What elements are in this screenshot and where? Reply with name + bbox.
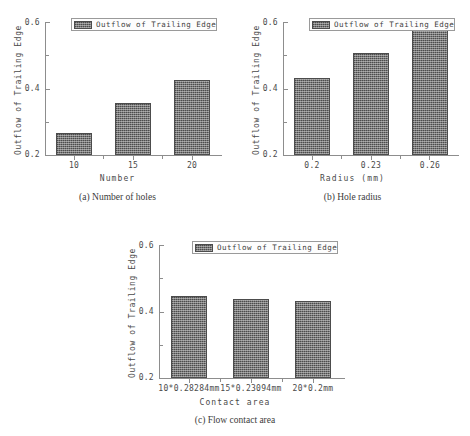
x-axis-title-c: Contact area xyxy=(110,398,360,407)
y-tick-label-a-2: 0.6 xyxy=(20,18,40,27)
legend-b: Outflow of Trailing Edge xyxy=(309,18,455,31)
bar-c-0 xyxy=(171,296,207,378)
y-tick-label-b-0: 0.2 xyxy=(258,150,278,159)
y-tick-c-minor-0 xyxy=(160,345,163,346)
x-tick-c-minor-1 xyxy=(282,379,283,382)
legend-swatch-icon-c xyxy=(195,244,213,252)
bar-b-2 xyxy=(412,28,448,155)
y-tick-a-minor-1 xyxy=(46,55,49,56)
y-tick-b-minor-0 xyxy=(284,122,287,123)
x-tick-label-b-1: 0.23 xyxy=(351,161,391,170)
x-tick-c-minor-0 xyxy=(220,379,221,382)
x-tick-label-c-2: 20*0.2mm xyxy=(278,384,348,393)
bar-c-2 xyxy=(295,301,331,378)
bar-a-2 xyxy=(174,80,210,155)
y-tick-label-c-1: 0.4 xyxy=(134,307,154,316)
x-tick-b-2 xyxy=(429,156,430,160)
chart-panel-a: Outflow of Trailing Edge 0.2 0.4 0.6 10 … xyxy=(0,0,235,210)
x-tick-a-minor-0 xyxy=(103,156,104,159)
x-tick-a-minor-1 xyxy=(162,156,163,159)
y-tick-label-b-2: 0.6 xyxy=(258,18,278,27)
y-tick-a-major-0 xyxy=(46,155,50,156)
y-tick-c-major-1 xyxy=(160,312,164,313)
y-tick-label-a-1: 0.4 xyxy=(20,84,40,93)
y-tick-b-major-2 xyxy=(284,22,288,23)
x-tick-c-2 xyxy=(313,379,314,383)
y-tick-c-major-0 xyxy=(160,378,164,379)
x-tick-b-minor-1 xyxy=(400,156,401,159)
bar-a-0 xyxy=(56,133,92,155)
bar-b-0 xyxy=(294,78,330,155)
y-tick-a-minor-0 xyxy=(46,122,49,123)
x-tick-b-0 xyxy=(312,156,313,160)
x-tick-c-0 xyxy=(189,379,190,383)
y-tick-b-major-1 xyxy=(284,89,288,90)
x-tick-b-minor-0 xyxy=(341,156,342,159)
legend-swatch-icon-b xyxy=(312,21,330,29)
x-tick-a-2 xyxy=(192,156,193,160)
y-tick-label-a-0: 0.2 xyxy=(20,150,40,159)
legend-label-a: Outflow of Trailing Edge xyxy=(96,20,216,29)
bar-b-1 xyxy=(353,53,389,155)
y-tick-a-major-2 xyxy=(46,22,50,23)
x-tick-label-a-2: 20 xyxy=(172,161,212,170)
y-tick-c-major-2 xyxy=(160,245,164,246)
x-axis-line-c xyxy=(159,378,345,379)
y-tick-label-c-2: 0.6 xyxy=(134,241,154,250)
legend-label-b: Outflow of Trailing Edge xyxy=(334,20,454,29)
x-tick-label-b-0: 0.2 xyxy=(292,161,332,170)
y-tick-c-minor-1 xyxy=(160,278,163,279)
legend-label-c: Outflow of Trailing Edge xyxy=(217,243,337,252)
x-tick-label-b-2: 0.26 xyxy=(410,161,450,170)
y-tick-b-minor-1 xyxy=(284,55,287,56)
chart-panel-c: Outflow of Trailing Edge 0.2 0.4 0.6 10*… xyxy=(110,218,360,436)
legend-c: Outflow of Trailing Edge xyxy=(192,241,338,254)
bar-a-1 xyxy=(115,103,151,155)
x-tick-a-0 xyxy=(74,156,75,160)
caption-b: (b) Hole radius xyxy=(235,192,470,202)
x-tick-label-a-0: 10 xyxy=(54,161,94,170)
legend-swatch-icon-a xyxy=(74,21,92,29)
caption-a: (a) Number of holes xyxy=(0,192,235,202)
x-tick-label-c-0: 10*0.28284mm xyxy=(154,384,224,393)
y-tick-b-major-0 xyxy=(284,155,288,156)
x-tick-c-1 xyxy=(251,379,252,383)
caption-c: (c) Flow contact area xyxy=(110,415,360,425)
x-axis-title-b: Radius (mm) xyxy=(235,174,470,183)
y-tick-label-c-0: 0.2 xyxy=(134,373,154,382)
bar-c-1 xyxy=(233,299,269,378)
x-tick-label-a-1: 15 xyxy=(113,161,153,170)
x-tick-label-c-1: 15*0.23094mm xyxy=(216,384,286,393)
x-tick-b-1 xyxy=(371,156,372,160)
x-tick-a-1 xyxy=(133,156,134,160)
y-tick-label-b-1: 0.4 xyxy=(258,84,278,93)
y-tick-a-major-1 xyxy=(46,89,50,90)
x-axis-title-a: Number xyxy=(0,174,235,183)
legend-a: Outflow of Trailing Edge xyxy=(71,18,217,31)
chart-panel-b: Outflow of Trailing Edge 0.2 0.4 0.6 0.2… xyxy=(235,0,470,210)
